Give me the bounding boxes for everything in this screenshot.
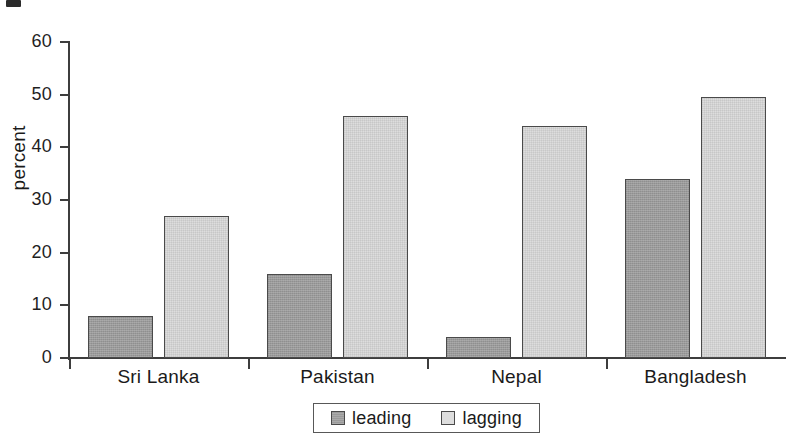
- bar-leading-bangladesh: [625, 179, 690, 358]
- y-axis-tick-50: [60, 94, 69, 96]
- legend-label-lagging: lagging: [462, 409, 521, 427]
- y-axis-tick-label-30: 30: [8, 190, 52, 208]
- bar-lagging-pakistan: [343, 116, 408, 358]
- bar-leading-nepal: [446, 337, 511, 358]
- x-axis-label-bangladesh: Bangladesh: [606, 366, 785, 388]
- y-axis-tick-label-60: 60: [8, 32, 52, 50]
- bar-lagging-bangladesh: [701, 97, 766, 358]
- legend-label-leading: leading: [352, 409, 411, 427]
- legend-swatch-leading-icon: [331, 411, 345, 425]
- y-axis-tick-30: [60, 199, 69, 201]
- y-axis-tick-label-20: 20: [8, 243, 52, 261]
- bar-lagging-nepal: [522, 126, 587, 358]
- y-axis-tick-label-40: 40: [8, 137, 52, 155]
- y-axis-tick-60: [60, 41, 69, 43]
- bar-chart: percent 0102030405060 Sri LankaPakistanN…: [0, 0, 798, 442]
- y-axis-tick-40: [60, 146, 69, 148]
- x-axis-label-nepal: Nepal: [427, 366, 606, 388]
- y-axis-tick-0: [60, 357, 69, 359]
- legend-item-lagging: lagging: [441, 409, 521, 427]
- bar-leading-sri-lanka: [88, 316, 153, 358]
- y-axis-tick-label-10: 10: [8, 295, 52, 313]
- x-axis-label-pakistan: Pakistan: [248, 366, 427, 388]
- legend-swatch-lagging-icon: [441, 411, 455, 425]
- chart-legend: leadinglagging: [313, 403, 540, 433]
- legend-item-leading: leading: [331, 409, 411, 427]
- y-axis-tick-label-0: 0: [8, 348, 52, 366]
- y-axis-tick-label-50: 50: [8, 85, 52, 103]
- bar-leading-pakistan: [267, 274, 332, 358]
- plot-area: [69, 42, 785, 358]
- x-axis-label-sri-lanka: Sri Lanka: [69, 366, 248, 388]
- y-axis-tick-10: [60, 304, 69, 306]
- bar-lagging-sri-lanka: [164, 216, 229, 358]
- y-axis-tick-20: [60, 252, 69, 254]
